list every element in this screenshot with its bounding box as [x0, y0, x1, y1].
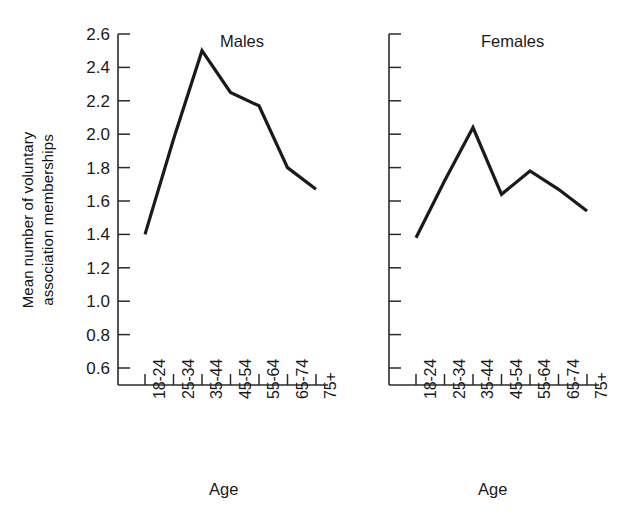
y-tick-label: 0.6	[68, 360, 110, 377]
y-tick-label: 0.8	[68, 327, 110, 344]
x-tick-label: 25-34	[451, 359, 469, 399]
x-tick-label: 75+	[322, 372, 340, 399]
x-tick-label: 55-64	[536, 359, 554, 399]
y-tick-label: 2.4	[68, 59, 110, 76]
y-tick-label: 1.0	[68, 293, 110, 310]
y-tick-label: 2.2	[68, 93, 110, 110]
x-tick-label: 45-54	[508, 359, 526, 399]
y-tick-label: 1.6	[68, 193, 110, 210]
x-axis-caption-left: Age	[209, 480, 238, 499]
data-series-line	[416, 128, 587, 238]
y-tick-label: 1.4	[68, 226, 110, 243]
y-axis-label: Mean number of voluntary association mem…	[8, 70, 68, 370]
x-tick-label: 65-74	[565, 359, 583, 399]
y-tick-label: 2.0	[68, 126, 110, 143]
x-tick-label: 25-34	[180, 359, 198, 399]
panel-males-plot	[110, 0, 350, 400]
panel-females-title: Females	[481, 32, 544, 51]
x-tick-label: 35-44	[208, 359, 226, 399]
x-tick-label: 65-74	[294, 359, 312, 399]
y-tick-label: 2.6	[68, 26, 110, 43]
x-tick-label: 35-44	[479, 359, 497, 399]
y-axis-tick-labels: 2.62.42.22.01.81.61.41.21.00.80.6	[66, 0, 110, 400]
figure-container: Mean number of voluntary association mem…	[0, 0, 631, 521]
panel-males-title: Males	[220, 32, 264, 51]
x-axis-caption-right: Age	[478, 480, 507, 499]
x-tick-label: 18-24	[422, 359, 440, 399]
y-axis-label-line2: association memberships	[38, 132, 58, 309]
panel-females-plot	[381, 0, 621, 400]
x-tick-label: 18-24	[151, 359, 169, 399]
x-tick-label: 45-54	[237, 359, 255, 399]
y-axis-label-line1: Mean number of voluntary	[18, 132, 38, 309]
x-tick-label: 75+	[593, 372, 611, 399]
y-tick-label: 1.2	[68, 260, 110, 277]
panel-females: Females 18-2425-3435-4445-5455-6465-7475…	[381, 0, 621, 400]
data-series-line	[145, 51, 316, 235]
y-tick-label: 1.8	[68, 160, 110, 177]
x-tick-label: 55-64	[265, 359, 283, 399]
panel-males: Males 18-2425-3435-4445-5455-6465-7475+	[110, 0, 350, 400]
